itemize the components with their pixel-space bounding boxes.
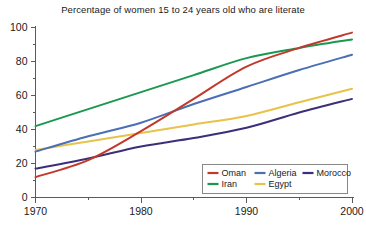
x-axis-tick-labels: 1970198019902000 bbox=[24, 205, 364, 217]
legend-label-morocco: Morocco bbox=[317, 168, 352, 178]
legend-label-iran: Iran bbox=[222, 179, 238, 189]
chart-figure: Percentage of women 15 to 24 years old w… bbox=[0, 0, 366, 234]
chart-legend: OmanAlgeriaMoroccoIranEgypt bbox=[203, 165, 352, 194]
x-tick-label: 1970 bbox=[24, 205, 48, 217]
legend-label-egypt: Egypt bbox=[269, 179, 293, 189]
y-tick-label: 40 bbox=[16, 123, 28, 135]
x-axis-ticks bbox=[36, 198, 353, 203]
y-tick-label: 20 bbox=[16, 157, 28, 169]
chart-plot-area: 020406080100 1970198019902000 OmanAlgeri… bbox=[0, 0, 366, 234]
y-tick-label: 60 bbox=[16, 89, 28, 101]
series-line-iran bbox=[36, 39, 353, 126]
x-tick-label: 1990 bbox=[235, 205, 259, 217]
x-tick-label: 1980 bbox=[129, 205, 153, 217]
legend-label-algeria: Algeria bbox=[269, 168, 297, 178]
y-axis-tick-labels: 020406080100 bbox=[10, 21, 28, 203]
x-tick-label: 2000 bbox=[340, 205, 364, 217]
series-line-morocco bbox=[36, 99, 353, 169]
series-lines bbox=[36, 33, 353, 178]
legend-label-oman: Oman bbox=[222, 168, 247, 178]
y-tick-label: 100 bbox=[10, 21, 28, 33]
y-tick-label: 0 bbox=[22, 191, 28, 203]
y-tick-label: 80 bbox=[16, 55, 28, 67]
y-axis-ticks bbox=[31, 28, 36, 198]
